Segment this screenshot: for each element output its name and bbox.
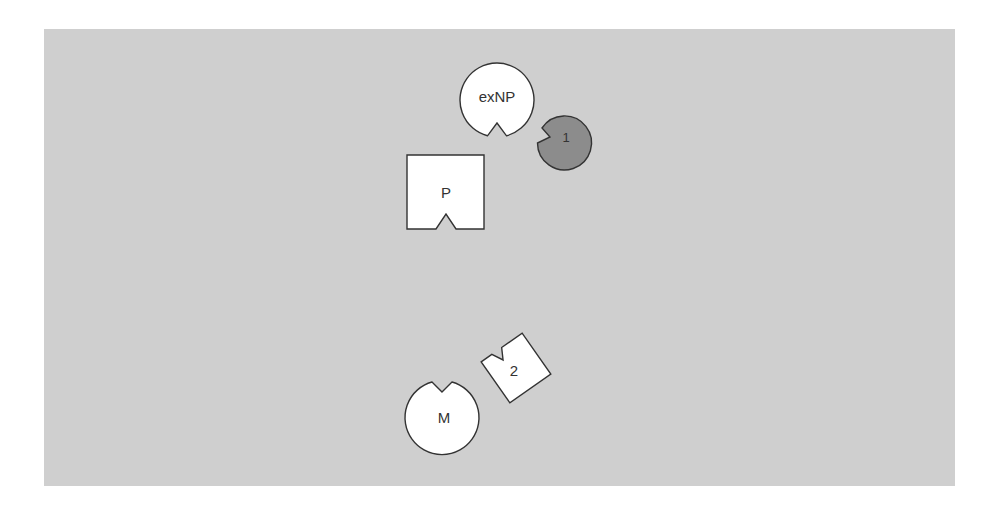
M-shape: M [405, 382, 479, 455]
M-label: M [438, 409, 451, 426]
ligand-1-label: 1 [562, 130, 569, 145]
P-shape: P [407, 155, 484, 229]
exNP-shape: exNP [460, 63, 534, 136]
binding-diagram: exNP 1 P 2 M [0, 0, 992, 509]
ligand-1-shape: 1 [538, 116, 592, 170]
ligand-2-label: 2 [510, 362, 518, 379]
P-label: P [441, 184, 451, 201]
exNP-label: exNP [479, 88, 516, 105]
